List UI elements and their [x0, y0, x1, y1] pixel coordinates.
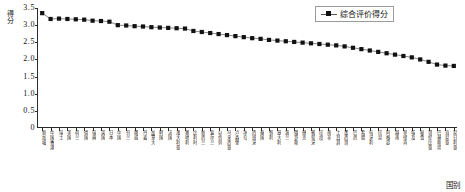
data-point — [368, 48, 372, 52]
data-point — [82, 18, 86, 22]
data-point — [116, 23, 120, 27]
x-tick-label: 尼日利亚 — [448, 130, 457, 176]
data-point — [65, 17, 69, 21]
data-point — [99, 19, 103, 23]
data-point — [334, 43, 338, 47]
data-point — [275, 38, 279, 42]
data-point — [208, 31, 212, 35]
data-point — [427, 60, 431, 64]
data-point — [40, 11, 44, 15]
data-point — [74, 17, 78, 21]
y-tick-label: 0.5 — [13, 107, 35, 115]
legend: 综合评价得分 — [315, 6, 394, 22]
data-point — [49, 17, 53, 21]
y-tick-label: 1.5 — [13, 73, 35, 81]
data-point — [200, 30, 204, 34]
data-point — [149, 25, 153, 29]
data-point — [410, 55, 414, 59]
data-point — [166, 26, 170, 30]
data-point — [259, 37, 263, 41]
data-point — [267, 38, 271, 42]
x-axis-title: 国别 — [446, 181, 460, 190]
data-point — [401, 54, 405, 58]
data-point — [309, 41, 313, 45]
y-tick-label: 0 — [13, 124, 35, 132]
data-point — [158, 25, 162, 29]
y-tick-mark — [35, 42, 38, 43]
y-tick-mark — [35, 77, 38, 78]
y-tick-mark — [35, 111, 38, 112]
data-point — [351, 46, 355, 50]
plot-area — [37, 8, 457, 128]
data-point — [418, 57, 422, 61]
data-point — [376, 50, 380, 54]
y-axis-tick-labels: 00.51.01.52.02.53.03.5 — [13, 0, 37, 135]
data-point — [359, 47, 363, 51]
data-point — [393, 53, 397, 57]
data-point — [133, 24, 137, 28]
chart-figure: 得分 00.51.01.52.02.53.03.5 综合评价得分 新加坡中国香港… — [0, 0, 465, 192]
data-point — [124, 23, 128, 27]
data-point — [217, 32, 221, 36]
y-tick-label: 3.5 — [13, 4, 35, 12]
data-point — [107, 20, 111, 24]
y-tick-mark — [35, 94, 38, 95]
data-point — [385, 51, 389, 55]
data-point — [443, 64, 447, 68]
data-point — [191, 29, 195, 33]
data-point — [183, 26, 187, 30]
data-point — [435, 62, 439, 66]
y-tick-label: 2.5 — [13, 38, 35, 46]
y-axis-title: 得分 — [1, 10, 13, 24]
data-point — [57, 17, 61, 21]
data-point — [250, 36, 254, 40]
y-tick-mark — [35, 8, 38, 9]
data-point — [91, 19, 95, 23]
y-tick-label: 2.0 — [13, 55, 35, 63]
data-point — [233, 34, 237, 38]
legend-label: 综合评价得分 — [340, 10, 388, 19]
y-tick-label: 1.0 — [13, 90, 35, 98]
x-axis-tick-labels: 新加坡中国香港瑞士美国荷兰德国瑞典英国日本中国芬兰挪威丹麦加拿大韩国法国澳大利亚… — [37, 130, 457, 178]
data-point — [242, 35, 246, 39]
data-point — [284, 39, 288, 43]
data-point — [301, 41, 305, 45]
data-point — [343, 44, 347, 48]
y-tick-mark — [35, 59, 38, 60]
y-tick-label: 3.0 — [13, 21, 35, 29]
data-point — [141, 24, 145, 28]
data-point — [175, 26, 179, 30]
y-tick-mark — [35, 25, 38, 26]
data-point — [317, 42, 321, 46]
data-point — [452, 64, 456, 68]
data-point — [225, 33, 229, 37]
data-series-line — [38, 8, 458, 128]
data-point — [326, 43, 330, 47]
data-point — [292, 40, 296, 44]
legend-marker-icon — [321, 14, 337, 15]
